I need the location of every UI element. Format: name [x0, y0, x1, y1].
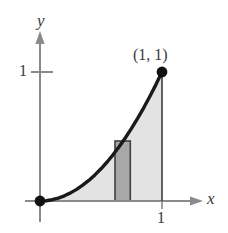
plot-canvas — [0, 0, 228, 233]
x-axis-arrowhead — [190, 196, 203, 205]
x-axis-label: x — [207, 190, 215, 207]
origin-point-marker — [35, 196, 46, 207]
y-axis-label: y — [37, 12, 45, 29]
graph-figure: y x 1 1 (1, 1) — [0, 0, 228, 233]
point-1-1-label: (1, 1) — [133, 47, 168, 63]
point-1-1-marker — [157, 67, 168, 78]
shaded-region-under-curve — [40, 72, 162, 201]
y-axis-tick-label-1: 1 — [19, 63, 27, 79]
y-axis-arrowhead — [35, 31, 44, 44]
x-axis-tick-label-1: 1 — [157, 210, 165, 226]
